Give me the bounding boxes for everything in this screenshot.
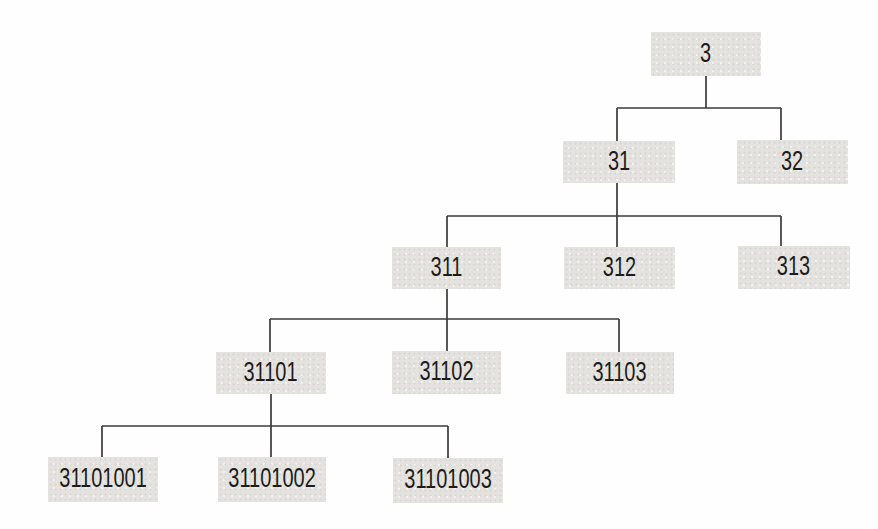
tree-node-312-label: 312 (603, 254, 636, 283)
tree-node-312: 312 (564, 247, 675, 289)
tree-diagram: 3 31 32 311 312 313 31101 31102 31103 31… (0, 0, 878, 529)
tree-node-31101003-label: 31101003 (404, 466, 491, 495)
tree-node-311: 311 (392, 247, 501, 289)
tree-node-313-label: 313 (777, 253, 810, 282)
tree-node-31101003: 31101003 (393, 458, 503, 503)
tree-node-3-label: 3 (700, 40, 711, 69)
tree-node-31101-label: 31101 (244, 359, 298, 388)
tree-node-31: 31 (563, 141, 675, 183)
tree-node-31101002: 31101002 (218, 457, 326, 502)
tree-node-31103-label: 31103 (593, 359, 647, 388)
tree-node-31101: 31101 (216, 352, 326, 394)
tree-node-32-label: 32 (781, 148, 803, 177)
tree-node-31102-label: 31102 (419, 358, 473, 387)
tree-node-313: 313 (738, 246, 850, 289)
tree-node-32: 32 (737, 140, 848, 184)
connectors-under-node-31 (447, 183, 781, 247)
tree-node-3: 3 (651, 32, 761, 76)
tree-node-31101001-label: 31101001 (59, 465, 146, 494)
tree-node-31-label: 31 (608, 148, 630, 177)
connectors-under-node-311 (270, 289, 619, 352)
tree-node-31102: 31102 (392, 351, 501, 394)
tree-node-31101002-label: 31101002 (228, 465, 315, 494)
tree-node-311-label: 311 (431, 254, 463, 283)
connectors-under-node-31101 (102, 394, 448, 458)
connectors-under-node-3 (617, 76, 781, 141)
tree-node-31103: 31103 (566, 352, 674, 394)
tree-node-31101001: 31101001 (48, 457, 158, 502)
